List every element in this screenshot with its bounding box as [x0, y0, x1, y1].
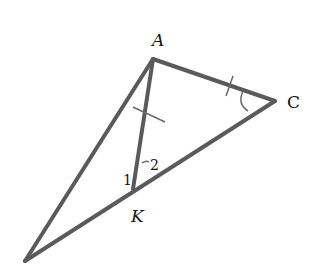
angle-label-2: 2	[150, 157, 159, 173]
segment-CB	[25, 101, 275, 261]
segment-AB	[25, 59, 153, 261]
vertex-label-C: C	[287, 92, 300, 112]
angle-arc-C	[241, 91, 248, 111]
angle-arc-2	[142, 161, 149, 163]
diagram-canvas: A C K 1 2	[0, 0, 323, 272]
vertex-label-A: A	[152, 30, 164, 50]
segment-AC	[153, 59, 275, 101]
tick-mark-AK	[133, 107, 165, 122]
angle-label-1: 1	[123, 172, 132, 188]
vertex-label-K: K	[131, 206, 144, 226]
